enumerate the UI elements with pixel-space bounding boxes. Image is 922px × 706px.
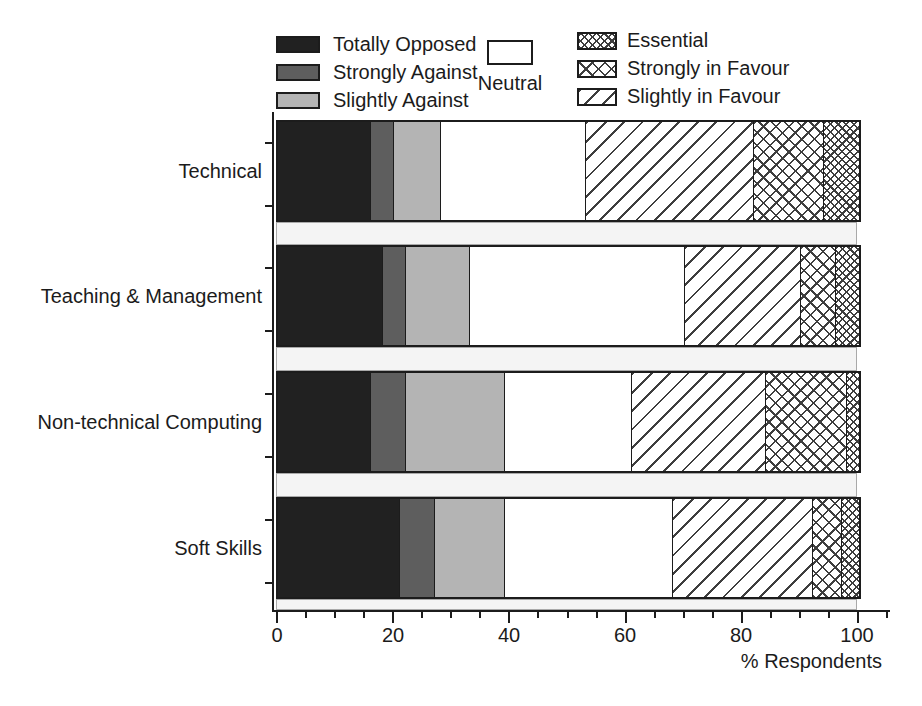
segment-slightly-against-soft-skills [435,499,505,597]
y-axis-line [272,112,274,612]
segment-strongly-against-non-technical-computing [371,373,406,471]
x-tick-label-80: 80 [701,624,781,647]
x-axis-minor-tick [886,612,888,618]
stacked-bar-chart-figure: Totally Opposed Strongly Against Slightl… [0,0,922,706]
x-axis-major-tick [625,612,627,623]
x-tick-label-40: 40 [469,624,549,647]
category-label-technical: Technical [0,159,262,183]
x-axis-minor-tick [363,612,365,618]
segment-strongly-in-favour-soft-skills [813,499,842,597]
segment-strongly-against-soft-skills [400,499,435,597]
y-axis-tick [265,142,273,144]
x-axis-minor-tick [712,612,714,618]
x-axis-minor-tick [799,612,801,618]
x-axis-minor-tick [596,612,598,618]
x-axis-minor-tick [450,612,452,618]
x-tick-label-60: 60 [585,624,665,647]
y-axis-tick [265,267,273,269]
x-axis-minor-tick [334,612,336,618]
x-axis-minor-tick [770,612,772,618]
segment-slightly-against-technical [394,122,440,220]
plot-area: Technical Teaching & Management Non-tech… [0,0,922,706]
segment-strongly-in-favour-non-technical-computing [766,373,847,471]
segment-slightly-against-teaching-management [406,247,470,345]
x-axis-major-tick [508,612,510,623]
gap-band [276,599,857,610]
segment-neutral-technical [441,122,586,220]
segment-essential-technical [824,122,859,220]
segment-slightly-in-favour-non-technical-computing [632,373,766,471]
x-axis-title: % Respondents [640,650,882,673]
x-axis-minor-tick [537,612,539,618]
category-label-non-technical-computing: Non-technical Computing [0,410,262,434]
bar-technical [276,120,861,222]
segment-slightly-against-non-technical-computing [406,373,505,471]
segment-totally-opposed-soft-skills [278,499,400,597]
x-axis-major-tick [392,612,394,623]
segment-slightly-in-favour-teaching-management [685,247,801,345]
segment-slightly-in-favour-soft-skills [673,499,812,597]
y-axis-tick [265,582,273,584]
segment-essential-non-technical-computing [847,373,859,471]
y-axis-tick [265,456,273,458]
category-label-soft-skills: Soft Skills [0,536,262,560]
x-axis-minor-tick [683,612,685,618]
x-axis-minor-tick [828,612,830,618]
x-axis-major-tick [741,612,743,623]
bar-non-technical-computing [276,371,861,473]
segment-strongly-against-technical [371,122,394,220]
gap-band [276,222,857,245]
segment-strongly-in-favour-technical [754,122,824,220]
x-axis-major-tick [276,612,278,623]
x-tick-label-0: 0 [237,624,317,647]
x-axis-minor-tick [654,612,656,618]
segment-neutral-non-technical-computing [505,373,633,471]
x-axis-minor-tick [479,612,481,618]
x-tick-label-100: 100 [817,624,897,647]
gap-band [276,473,857,497]
bar-soft-skills [276,497,861,599]
segment-totally-opposed-teaching-management [278,247,383,345]
gap-band [276,347,857,371]
segment-neutral-soft-skills [505,499,673,597]
x-tick-label-20: 20 [353,624,433,647]
segment-essential-soft-skills [842,499,859,597]
x-axis-major-tick [857,612,859,623]
segment-neutral-teaching-management [470,247,685,345]
y-axis-tick [265,393,273,395]
segment-essential-teaching-management [836,247,859,345]
y-axis-tick [265,519,273,521]
segment-totally-opposed-technical [278,122,371,220]
segment-strongly-in-favour-teaching-management [801,247,836,345]
category-label-teaching-management: Teaching & Management [0,284,262,308]
y-axis-tick [265,205,273,207]
y-axis-tick [265,330,273,332]
segment-totally-opposed-non-technical-computing [278,373,371,471]
bar-teaching-management [276,245,861,347]
segment-slightly-in-favour-technical [586,122,754,220]
x-axis-minor-tick [421,612,423,618]
segment-strongly-against-teaching-management [383,247,406,345]
x-axis-minor-tick [567,612,569,618]
x-axis-minor-tick [305,612,307,618]
